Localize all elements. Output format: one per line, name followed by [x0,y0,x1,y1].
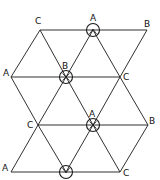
lattice-edge [38,125,66,172]
label-r1c: B [144,19,150,29]
label-r2a: A [3,68,10,78]
triangular-lattice-diagram: C A B A B C C A B A C [0,0,160,180]
label-r4c: C [123,168,129,178]
lattice-edge [66,30,93,77]
label-r3a: C [27,120,33,130]
label-r2c: C [123,72,129,82]
label-r3b: A [89,109,96,119]
lattice-edge [66,125,93,172]
lattice-edge [11,77,38,125]
site-labels: C A B A B C C A B A C [2,13,155,178]
label-r3c: B [149,116,155,126]
label-r4a: A [2,163,9,173]
label-r1b: A [90,13,97,23]
lattice-edge [120,125,148,172]
lattice-edge [93,30,120,77]
lattice-edge [11,125,38,172]
lattice-edge [38,77,66,125]
lattice-edge [120,30,147,77]
label-r1a: C [35,16,41,26]
lattice-edge [120,77,148,125]
lattice-edge [11,30,40,77]
lattice-edge [93,77,120,125]
label-r2b: B [62,61,68,71]
lattice-edge [93,125,120,172]
lattice-edges [11,30,148,172]
